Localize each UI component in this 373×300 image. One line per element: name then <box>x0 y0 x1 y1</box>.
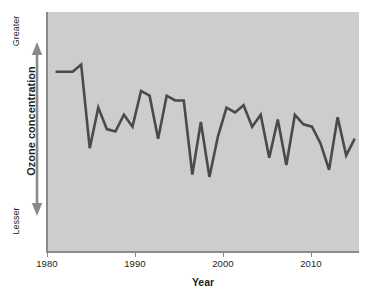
ozone-concentration-chart: 1980 1990 2000 2010 Year Greater Lesser … <box>0 0 373 300</box>
y-axis-top-label: Greater <box>11 0 21 71</box>
y-axis-line <box>46 12 48 253</box>
x-tick-label-1980: 1980 <box>27 258 67 269</box>
x-axis-title: Year <box>47 276 359 288</box>
x-axis-line <box>47 251 359 253</box>
x-tick-1990 <box>135 251 136 257</box>
x-tick-label-2000: 2000 <box>203 258 243 269</box>
x-tick-2010 <box>311 251 312 257</box>
x-tick-label-1990: 1990 <box>115 258 155 269</box>
ozone-concentration-line <box>56 65 355 177</box>
y-axis-bottom-label: Lesser <box>11 181 21 261</box>
y-axis-title: Ozone concentration <box>25 36 37 206</box>
x-tick-label-2010: 2010 <box>291 258 331 269</box>
data-line-svg <box>47 12 359 251</box>
x-tick-2000 <box>223 251 224 257</box>
plot-area <box>47 12 359 251</box>
